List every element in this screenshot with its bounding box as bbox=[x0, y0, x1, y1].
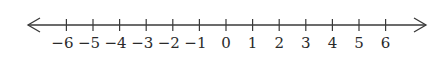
tick-label: 0 bbox=[221, 34, 231, 52]
tick-group: −6−5−4−3−2−10123456 bbox=[51, 19, 390, 52]
tick-label: 2 bbox=[274, 34, 284, 52]
tick-label: −6 bbox=[51, 34, 73, 52]
tick-label: −1 bbox=[184, 34, 206, 52]
tick-label: −4 bbox=[105, 34, 127, 52]
tick-label: −5 bbox=[78, 34, 100, 52]
tick-label: −3 bbox=[131, 34, 153, 52]
tick-label: 4 bbox=[328, 34, 338, 52]
tick-label: 1 bbox=[248, 34, 258, 52]
number-line: −6−5−4−3−2−10123456 bbox=[0, 0, 443, 58]
tick-label: 3 bbox=[301, 34, 311, 52]
tick-label: 5 bbox=[354, 34, 364, 52]
tick-label: 6 bbox=[381, 34, 391, 52]
tick-label: −2 bbox=[158, 34, 180, 52]
